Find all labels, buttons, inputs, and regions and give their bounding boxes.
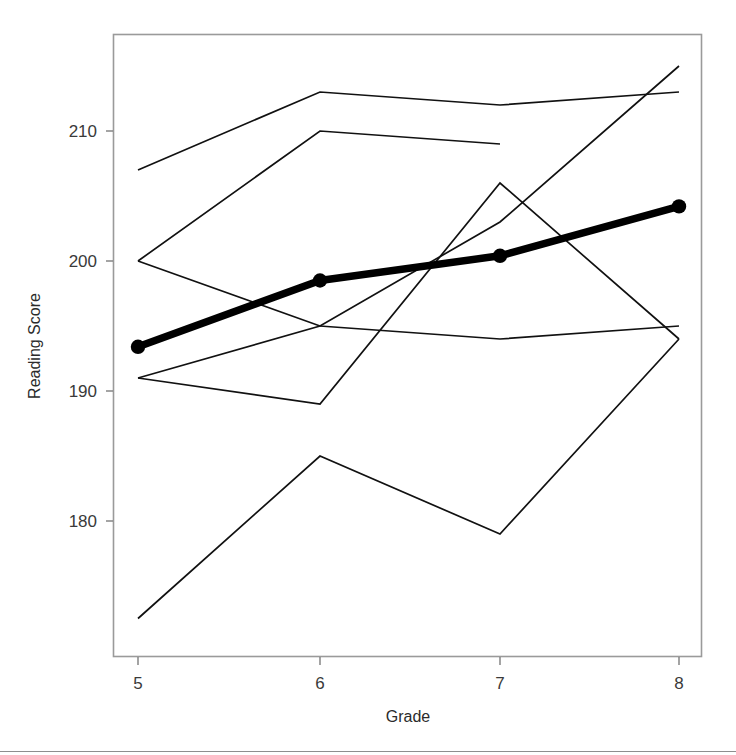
mean-data-point	[672, 199, 686, 213]
series-line	[138, 261, 679, 339]
y-axis-ticks	[106, 131, 113, 521]
series-layer	[131, 66, 686, 619]
series-line	[138, 183, 679, 404]
y-tick-label-190: 190	[69, 382, 97, 401]
y-tick-label-210: 210	[69, 122, 97, 141]
x-axis-ticks	[138, 657, 679, 665]
mean-data-point	[493, 249, 507, 263]
line-chart: 210 200 190 180 5 6 7 8 Grade Reading Sc…	[0, 0, 736, 755]
x-tick-label-6: 6	[315, 674, 324, 693]
mean-series-line	[138, 206, 679, 346]
series-line	[138, 92, 679, 170]
mean-data-point	[131, 340, 145, 354]
x-tick-label-8: 8	[674, 674, 683, 693]
series-line	[138, 131, 500, 261]
mean-data-point	[313, 273, 327, 287]
x-tick-label-7: 7	[495, 674, 504, 693]
y-tick-label-200: 200	[69, 252, 97, 271]
footer-divider	[0, 751, 736, 752]
x-tick-label-5: 5	[133, 674, 142, 693]
y-tick-label-180: 180	[69, 512, 97, 531]
y-axis-title: Reading Score	[26, 293, 43, 399]
x-axis-title: Grade	[386, 708, 431, 725]
reading-score-figure: 210 200 190 180 5 6 7 8 Grade Reading Sc…	[0, 0, 736, 755]
series-line	[138, 339, 679, 619]
plot-frame	[114, 35, 702, 657]
